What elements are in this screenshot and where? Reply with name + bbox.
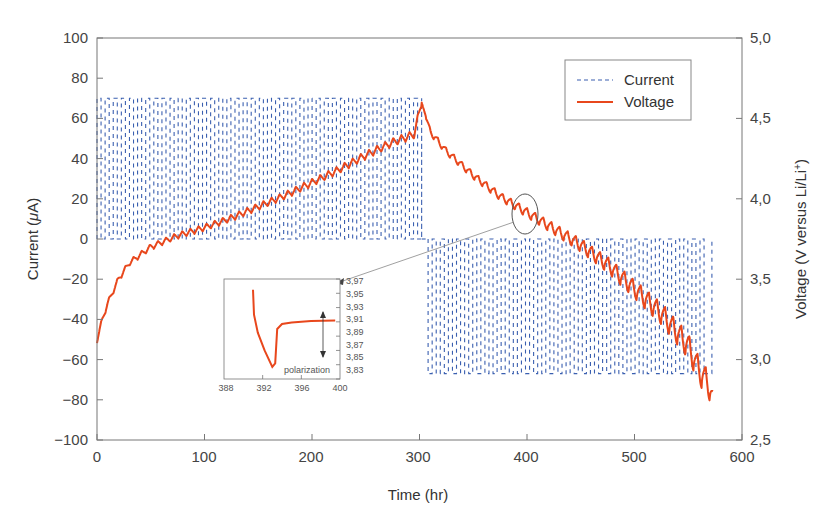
inset-x-tick: 388 <box>218 383 233 393</box>
y-right-tick: 4,5 <box>750 109 771 126</box>
inset-y-tick: 3,89 <box>346 327 364 337</box>
y-right-tick: 5,0 <box>750 29 771 46</box>
y-right-tick: 4,0 <box>750 190 771 207</box>
x-tick-labels: 0 100 200 300 400 500 600 <box>93 448 755 465</box>
inset-chart: polarization 3,97 3,95 3,93 3,91 3,89 3,… <box>218 276 363 393</box>
polarization-label: polarization <box>284 365 330 375</box>
y-left-title-mu: μ <box>24 213 41 222</box>
inset-x-tick: 392 <box>256 383 271 393</box>
x-tick: 400 <box>513 448 538 465</box>
inset-y-tick: 3,97 <box>346 276 364 286</box>
y-right-tick-labels: 5,0 4,5 4,0 3,5 3,0 2,5 <box>750 29 771 448</box>
y-left-tick: −20 <box>63 270 88 287</box>
x-tick: 300 <box>405 448 430 465</box>
y-left-tick: 100 <box>63 29 88 46</box>
y-left-tick: 40 <box>71 150 88 167</box>
y-left-tick: −40 <box>63 310 88 327</box>
y-right-tick: 2,5 <box>750 431 771 448</box>
inset-y-tick: 3,83 <box>346 365 364 375</box>
y-left-tick: 20 <box>71 190 88 207</box>
legend-box <box>565 60 691 120</box>
y-left-title-suffix: A) <box>24 198 41 213</box>
y-right-title-suffix: ) <box>792 159 809 164</box>
x-tick: 100 <box>191 448 216 465</box>
y-left-tick: −100 <box>54 431 88 448</box>
inset-y-tick: 3,91 <box>346 314 364 324</box>
y-left-title-prefix: Current ( <box>24 221 41 280</box>
inset-y-tick: 3,87 <box>346 340 364 350</box>
chart-canvas: 100 80 60 40 20 0 −20 −40 −60 −80 −100 5… <box>0 0 828 525</box>
x-tick: 200 <box>298 448 323 465</box>
y-left-tick: −60 <box>63 351 88 368</box>
voltage-series <box>97 103 713 401</box>
y-left-axis-title: Current (μA) <box>24 198 41 280</box>
y-right-tick: 3,0 <box>750 350 771 367</box>
inset-x-tick: 400 <box>332 383 347 393</box>
inset-y-tick: 3,85 <box>346 352 364 362</box>
zoom-arrow-line <box>340 222 514 282</box>
x-axis-title: Time (hr) <box>388 486 448 503</box>
y-left-tick: 80 <box>71 69 88 86</box>
x-tick: 0 <box>93 448 101 465</box>
legend-current-label: Current <box>624 71 675 88</box>
inset-x-tick: 396 <box>294 383 309 393</box>
y-left-tick-labels: 100 80 60 40 20 0 −20 −40 −60 −80 −100 <box>54 29 88 448</box>
x-tick: 600 <box>729 448 754 465</box>
y-right-tick: 3,5 <box>750 270 771 287</box>
inset-y-tick: 3,93 <box>346 302 364 312</box>
y-left-tick: 60 <box>71 109 88 126</box>
y-right-axis-title: Voltage (V versus Li/Li+) <box>792 159 809 319</box>
y-right-title-prefix: Voltage (V versus Li/Li <box>792 170 809 319</box>
y-left-tick: 0 <box>80 230 88 247</box>
x-tick: 500 <box>621 448 646 465</box>
inset-y-tick: 3,95 <box>346 289 364 299</box>
legend-voltage-label: Voltage <box>624 93 674 110</box>
legend: Current Voltage <box>565 60 691 120</box>
y-left-tick: −80 <box>63 391 88 408</box>
